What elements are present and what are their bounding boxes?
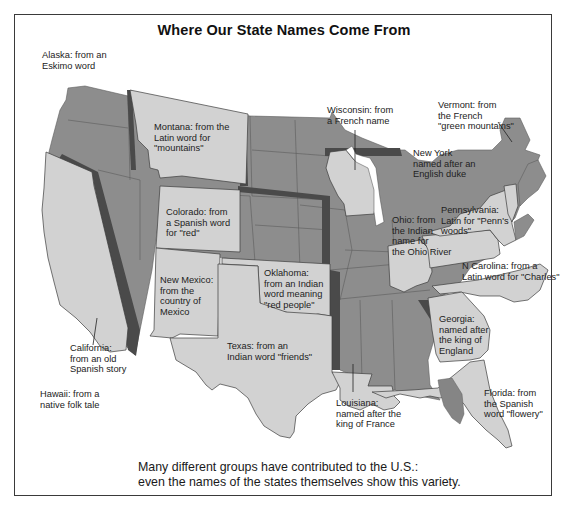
label-georgia: Georgia: named after the king of England (439, 314, 489, 356)
label-wisconsin: Wisconsin: from a French name (327, 105, 393, 126)
label-louisiana: Louisiana: named after the king of Franc… (336, 398, 401, 430)
us-map (0, 0, 568, 517)
label-florida: Florida: from the Spanish word "flowery" (484, 388, 543, 420)
label-n-carolina: N Carolina: from a Latin word for "Charl… (462, 261, 560, 282)
caption-line-1: Many different groups have contributed t… (138, 460, 418, 474)
label-vermont: Vermont: from the French "green mountain… (438, 100, 514, 132)
label-new-mexico: New Mexico: from the country of Mexico (160, 275, 213, 317)
label-hawaii: Hawaii: from a native folk tale (40, 389, 99, 410)
label-colorado: Colorado: from a Spanish word for "red" (166, 207, 230, 239)
state-new-england-south (514, 214, 534, 240)
label-oklahoma: Oklahoma: from an Indian word meaning "r… (264, 268, 323, 310)
label-new-york: New York named after an English duke (413, 148, 476, 180)
label-texas: Texas: from an Indian word "friends" (227, 341, 312, 362)
map-caption: Many different groups have contributed t… (138, 460, 461, 490)
caption-line-2: even the names of the states themselves … (138, 475, 461, 489)
label-ohio: Ohio: from the Indian name for the Ohio … (392, 215, 451, 257)
label-montana: Montana: from the Latin word for "mounta… (154, 122, 229, 154)
label-california: California: from an old Spanish story (70, 343, 126, 375)
label-alaska: Alaska: from an Eskimo word (42, 50, 107, 71)
